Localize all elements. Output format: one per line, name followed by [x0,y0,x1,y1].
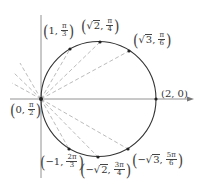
axis-arrow-icon [187,97,194,102]
label-point-0-pi2: ( 0, π2 ) [10,102,41,117]
label-point-negsqrt3-5pi6: ( −√3, 5π6 ) [132,152,183,167]
dashed-rays [12,42,129,157]
point-sqrt3-pi6 [127,49,130,52]
point-negsqrt2-3pi4 [96,155,99,158]
point-negsqrt3-5pi6 [126,147,129,150]
label-point-sqrt2-pi4: ( √2, π4 ) [81,18,119,33]
point-neg1-2pi3 [67,147,70,150]
label-point-neg1-2pi3: ( −1, 2π3 ) [40,154,84,169]
label-point-negsqrt2-3pi4: ( −√2, 3π4 ) [80,162,131,177]
label-point-2-0: (2, 0) [161,89,188,99]
plot-points [39,40,158,158]
point-1-pi3 [68,47,71,50]
point-2-0 [154,97,157,100]
label-point-sqrt3-pi6: ( √3, π6 ) [133,32,171,47]
label-point-1-pi3: ( 1, π3 ) [43,23,74,38]
point-sqrt2-pi4 [98,40,101,43]
